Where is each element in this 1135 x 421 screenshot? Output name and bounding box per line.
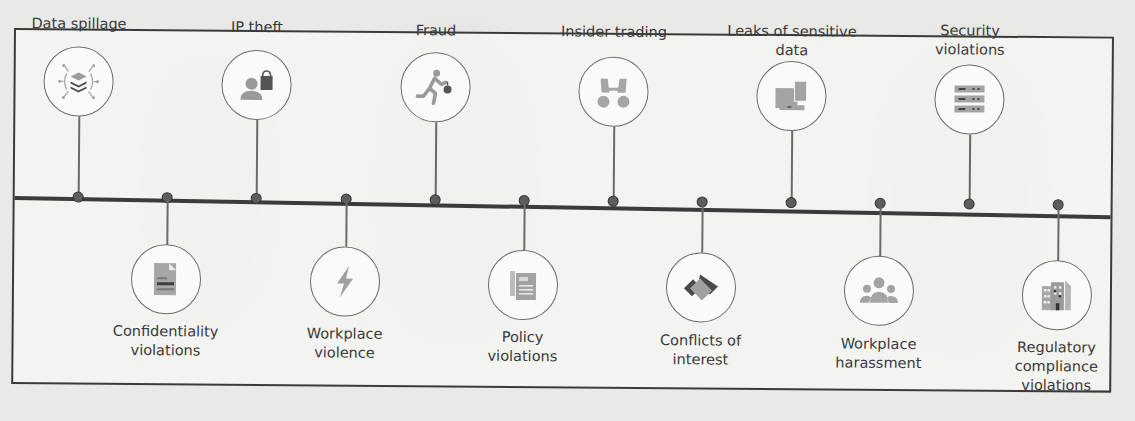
icon-circle <box>221 50 292 121</box>
connector-stem <box>78 117 80 195</box>
timeline-node <box>251 193 262 204</box>
icon-circle <box>1022 260 1093 331</box>
ip-theft-icon <box>235 64 277 106</box>
item-label: Leaks of sensitive data <box>712 21 872 60</box>
connector-stem <box>166 201 168 245</box>
timeline-node <box>964 198 975 209</box>
connector-stem <box>791 131 793 199</box>
icon-circle <box>488 250 559 321</box>
connector-stem <box>256 120 258 195</box>
sensitive-data-leak-icon <box>770 75 812 117</box>
item-label: Workplace violence <box>264 324 424 363</box>
connector-stem <box>1057 208 1059 261</box>
connector-stem <box>701 205 703 252</box>
timeline-frame: Data spillage IP theft <box>11 28 1114 393</box>
connector-stem <box>345 203 347 247</box>
item-label: Conflicts of interest <box>620 331 780 370</box>
item-label: Security violations <box>890 21 1050 60</box>
icon-circle <box>666 252 737 323</box>
timeline-node <box>73 191 84 202</box>
security-violations-icon <box>948 78 990 120</box>
icon-circle <box>310 246 381 317</box>
item-label: Policy violations <box>442 327 602 366</box>
data-spillage-icon <box>57 60 99 102</box>
icon-circle <box>43 46 114 117</box>
fraud-icon <box>414 66 456 108</box>
connector-stem <box>435 122 437 196</box>
regulatory-compliance-icon <box>1036 274 1078 316</box>
connector-stem <box>613 127 615 198</box>
item-label: Fraud <box>356 21 516 41</box>
item-label: Confidentiality violations <box>85 322 245 361</box>
icon-circle <box>131 244 202 315</box>
workplace-harassment-icon <box>858 270 900 312</box>
timeline-node <box>430 194 441 205</box>
workplace-violence-icon <box>324 260 366 302</box>
icon-circle <box>934 64 1005 135</box>
icon-circle <box>844 256 915 327</box>
conflicts-of-interest-icon <box>680 266 722 308</box>
insider-trading-icon <box>592 71 634 113</box>
confidentiality-icon <box>145 258 187 300</box>
connector-stem <box>969 135 971 201</box>
item-label: Regulatory compliance violations <box>976 338 1135 396</box>
icon-circle <box>400 52 471 123</box>
policy-violations-icon <box>502 264 544 306</box>
connector-stem <box>523 204 525 250</box>
item-label: Workplace harassment <box>798 334 958 373</box>
item-label: Data spillage <box>0 14 159 34</box>
timeline-line <box>15 196 1111 219</box>
item-label: Insider trading <box>534 22 694 42</box>
item-label: IP theft <box>177 17 337 37</box>
timeline-node <box>786 197 797 208</box>
connector-stem <box>879 207 881 257</box>
icon-circle <box>578 56 649 127</box>
icon-circle <box>756 61 827 132</box>
timeline-node <box>608 196 619 207</box>
